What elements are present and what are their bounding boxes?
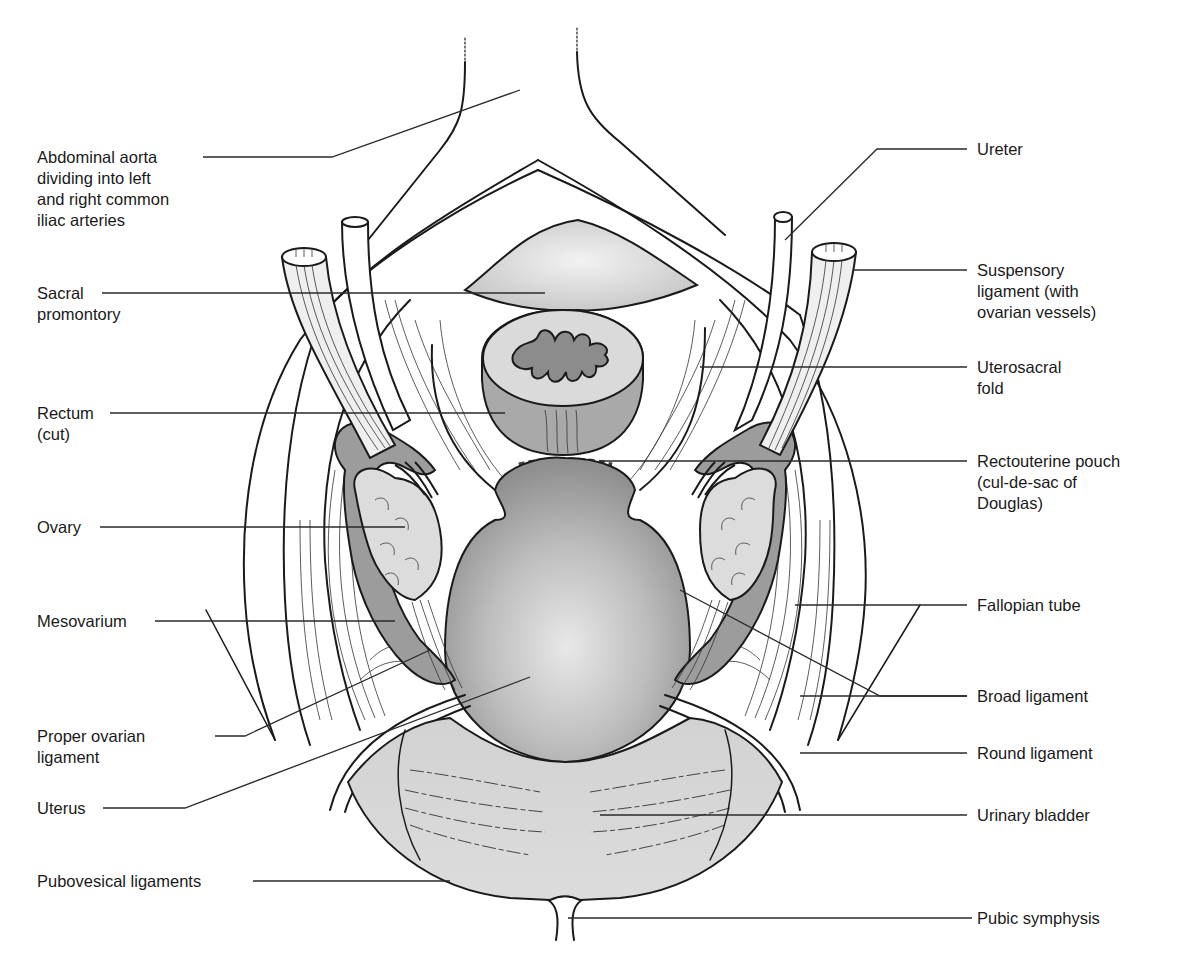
- label-proper-ovarian-ligament: Proper ovarian ligament: [37, 726, 145, 768]
- pubic-symphysis-left: [548, 900, 558, 940]
- abdominal-wall-outline: [360, 28, 725, 250]
- pubic-symphysis-right: [572, 900, 582, 940]
- rectum-shape: [482, 310, 643, 455]
- label-urinary-bladder: Urinary bladder: [977, 805, 1090, 826]
- right-vessels: [735, 212, 856, 455]
- label-abdominal-aorta: Abdominal aorta dividing into left and r…: [37, 147, 169, 231]
- label-pubovesical-ligaments: Pubovesical ligaments: [37, 871, 201, 892]
- label-pubic-symphysis: Pubic symphysis: [977, 908, 1100, 929]
- label-fallopian-tube: Fallopian tube: [977, 595, 1081, 616]
- label-round-ligament: Round ligament: [977, 743, 1093, 764]
- label-ovary: Ovary: [37, 517, 81, 538]
- uterus-shape: [445, 458, 690, 762]
- label-sacral-promontory: Sacral promontory: [37, 283, 120, 325]
- left-tick: [206, 610, 275, 740]
- label-ureter: Ureter: [977, 139, 1023, 160]
- sacral-promontory-shape: [465, 220, 697, 310]
- right-tick: [838, 605, 920, 740]
- label-suspensory-ligament: Suspensory ligament (with ovarian vessel…: [977, 260, 1096, 323]
- label-uterus: Uterus: [37, 798, 86, 819]
- label-broad-ligament: Broad ligament: [977, 686, 1088, 707]
- label-rectouterine-pouch: Rectouterine pouch (cul-de-sac of Dougla…: [977, 451, 1120, 514]
- left-adnexa: [335, 423, 462, 690]
- label-uterosacral-fold: Uterosacral fold: [977, 357, 1061, 399]
- label-mesovarium: Mesovarium: [37, 611, 127, 632]
- label-rectum: Rectum (cut): [37, 403, 94, 445]
